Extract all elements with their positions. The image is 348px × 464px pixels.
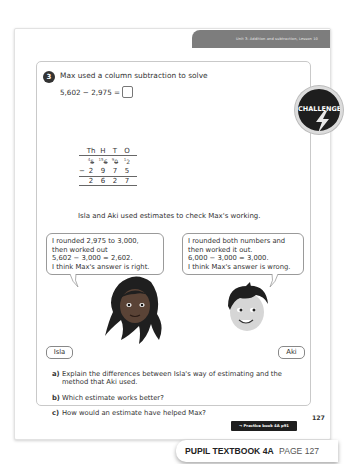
subtrahend-h: 9 xyxy=(97,167,109,175)
part-label: c) xyxy=(52,409,62,417)
unit-lesson-band: Unit 3: Addition and subtraction, Lesson… xyxy=(192,30,330,48)
answer-box[interactable] xyxy=(122,86,133,98)
speech-tail-icon xyxy=(69,274,79,288)
minuend-o: 12 xyxy=(121,157,133,165)
challenge-badge: CHALLENGE xyxy=(295,86,343,134)
page-label: PAGE 127 xyxy=(279,446,319,456)
answer-h: 6 xyxy=(97,177,109,185)
question-number: 3 xyxy=(43,71,55,83)
header-th: Th xyxy=(85,147,97,155)
question-box: 3 Max used a column subtraction to solve… xyxy=(36,61,311,406)
aki-name-tag: Aki xyxy=(278,346,305,359)
aki-character-illustration xyxy=(220,282,274,338)
isla-speech-line: 5,602 − 3,000 = 2,602. xyxy=(52,254,158,263)
subtrahend-row: − 2 9 7 5 xyxy=(79,166,137,176)
answer-t: 2 xyxy=(109,177,121,185)
isla-speech-line: I think Max's answer is right. xyxy=(52,263,158,272)
minuend-th: 45 xyxy=(85,157,97,165)
pupil-textbook-label: PUPIL TEXTBOOK 4A PAGE 127 xyxy=(176,440,338,462)
header-t: T xyxy=(109,147,121,155)
textbook-page: Unit 3: Addition and subtraction, Lesson… xyxy=(14,28,331,440)
lightning-bolt-icon xyxy=(312,111,332,133)
aki-speech-line: I think Max's answer is wrong. xyxy=(188,263,298,272)
question-part-a: a) Explain the differences between Isla'… xyxy=(52,370,302,387)
practice-book-link[interactable]: → Practice book 4A p91 xyxy=(231,421,297,431)
equation: 5,602 − 2,975 = xyxy=(60,86,133,98)
header-o: O xyxy=(121,147,133,155)
book-label: PUPIL TEXTBOOK 4A xyxy=(185,446,274,456)
isla-speech-line: I rounded 2,975 to 3,000, xyxy=(52,237,158,246)
minuend-h: 156 xyxy=(97,157,109,165)
intro-text: Isla and Aki used estimates to check Max… xyxy=(78,212,261,220)
aki-speech-line: 6,000 − 3,000 = 3,000. xyxy=(188,254,298,263)
column-subtraction: Th H T O 45 156 90 12 − 2 9 7 5 2 xyxy=(79,146,137,186)
aki-speech-bubble: I rounded both numbers and then worked i… xyxy=(182,233,304,275)
part-text: How would an estimate have helped Max? xyxy=(62,409,206,417)
isla-character-illustration xyxy=(99,274,171,346)
equation-text: 5,602 − 2,975 = xyxy=(60,88,120,97)
isla-speech-line: then worked out xyxy=(52,246,158,255)
part-label: a) xyxy=(52,370,62,387)
aki-speech-line: I rounded both numbers and xyxy=(188,237,298,246)
isla-speech-bubble: I rounded 2,975 to 3,000, then worked ou… xyxy=(46,233,164,275)
minuend-t: 90 xyxy=(109,157,121,165)
part-label: b) xyxy=(52,394,62,402)
subtrahend-th: 2 xyxy=(85,167,97,175)
page-number: 127 xyxy=(312,414,325,421)
question-part-c: c) How would an estimate have helped Max… xyxy=(52,409,302,417)
question-parts: a) Explain the differences between Isla'… xyxy=(52,370,302,425)
part-text: Explain the differences between Isla's w… xyxy=(62,370,302,387)
answer-th: 2 xyxy=(85,177,97,185)
question-part-b: b) Which estimate works better? xyxy=(52,394,302,402)
place-value-headers: Th H T O xyxy=(79,146,137,156)
question-text: Max used a column subtraction to solve xyxy=(60,71,208,80)
isla-name-tag: Isla xyxy=(46,346,73,359)
part-text: Which estimate works better? xyxy=(62,394,164,402)
header-h: H xyxy=(97,147,109,155)
subtrahend-t: 7 xyxy=(109,167,121,175)
subtrahend-o: 5 xyxy=(121,167,133,175)
aki-speech-line: then worked it out. xyxy=(188,246,298,255)
answer-row: 2 6 2 7 xyxy=(79,176,137,186)
answer-o: 7 xyxy=(121,177,133,185)
minuend-row-with-exchanges: 45 156 90 12 xyxy=(79,156,137,166)
